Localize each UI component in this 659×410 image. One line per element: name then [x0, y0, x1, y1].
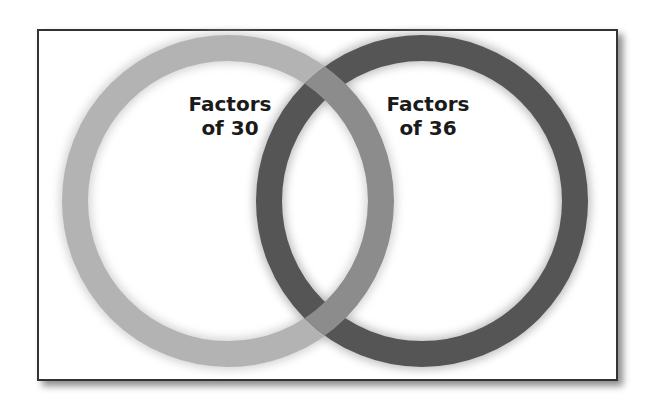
set-right-label-line2: of 36 [368, 116, 488, 140]
venn-diagram [0, 0, 659, 410]
set-left-label: Factors of 30 [170, 92, 290, 140]
set-right-label-line1: Factors [368, 92, 488, 116]
set-right-label: Factors of 36 [368, 92, 488, 140]
set-left-label-line2: of 30 [170, 116, 290, 140]
set-left-label-line1: Factors [170, 92, 290, 116]
